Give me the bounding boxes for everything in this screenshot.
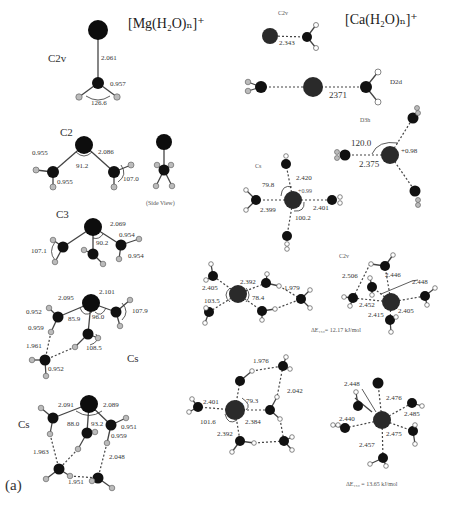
- bond-label: 2.420: [296, 174, 312, 182]
- mg-n3-symmetry: C3: [56, 208, 69, 220]
- angle-label: 78.4: [252, 294, 265, 302]
- bond-label: 2.061: [101, 54, 117, 62]
- mg-n1-structure: C2v 2.061 0.957 126.6: [48, 20, 126, 107]
- angle-label: 90.2: [96, 239, 109, 247]
- bond-label: 2.086: [98, 148, 114, 156]
- angle-label: 107.0: [123, 175, 139, 183]
- bond-label: 2.476: [386, 394, 402, 402]
- ca-n5a-structure: C2v 2.506 2.446 2.448: [311, 253, 437, 335]
- ca-n2-structure: D2d 2371: [245, 69, 402, 105]
- bond-label: 2.446: [385, 271, 401, 279]
- h-atom: [114, 94, 120, 100]
- h-atom: [76, 94, 82, 100]
- charge-label: +0.99: [298, 188, 312, 194]
- bond-label: 2.048: [109, 453, 125, 461]
- bond-label: 2.401: [203, 398, 219, 406]
- bond-label: 0.952: [48, 365, 64, 373]
- bond-label: 2.448: [412, 278, 428, 286]
- molecular-structures-diagram: [Mg(H₂O)ₙ]⁺ [Ca(H₂O)ₙ]⁺ C2v 2.061 0.957 …: [0, 0, 452, 509]
- bond-label: 0.957: [110, 80, 126, 88]
- ca-n5b-structure: Cs: [187, 355, 304, 455]
- angle-label: 120.0: [351, 138, 372, 148]
- ca-n3-structure: D3h 120.0 +0.98 2.375: [335, 106, 421, 208]
- bond-label: 2.384: [245, 418, 261, 426]
- mg-column-title: [Mg(H₂O)ₙ]⁺: [128, 16, 205, 32]
- ca-n4b-structure: 2.405 2.392 1.979 103.5 78.4: [202, 262, 312, 326]
- ca-n4a-symmetry: Cs: [255, 163, 262, 169]
- bond-label: 1.951: [68, 478, 84, 486]
- mg-n5-symmetry: Cs: [18, 418, 30, 430]
- bond-label: 0.952: [26, 308, 42, 316]
- bond-label: 1.979: [284, 284, 300, 292]
- angle-label: 101.6: [200, 418, 216, 426]
- bond-label: 1.963: [33, 448, 49, 456]
- bond-label: 0.951: [121, 423, 137, 431]
- ca-n6-structure: 2.448 2.476 2.440 2.485 2.475 2.457 ΔE₁₅…: [331, 378, 425, 488]
- bond-label: 0.954: [128, 252, 144, 260]
- panel-label: (a): [5, 477, 22, 494]
- angle-label: 88.0: [67, 420, 80, 428]
- mg-n4-structure: 2.095 2.101 0.952 0.959 1.961 85.9 96.0 …: [26, 288, 148, 379]
- mg-n5-structure: Cs 2.091 2.089 88.: [18, 395, 137, 491]
- bond-label: 0.959: [28, 324, 44, 332]
- angle-label: 79.3: [246, 397, 259, 405]
- angle-label: 91.2: [76, 162, 89, 170]
- bond-label: 2.457: [359, 441, 375, 449]
- bond-label: 2.042: [287, 387, 303, 395]
- bond-label: 2.440: [339, 415, 355, 423]
- angle-label: 100.2: [295, 214, 311, 222]
- energy-label-n5: ΔE₁₅₀= 12.17 kJ/mol: [311, 327, 361, 333]
- bond-label: 2.343: [279, 39, 295, 47]
- angle-label: 85.9: [68, 315, 81, 323]
- bond-label: 2.392: [217, 430, 233, 438]
- bond-label: 2.452: [359, 301, 375, 309]
- bond-label: 1.976: [253, 357, 269, 365]
- bond-label: 0.955: [57, 178, 73, 186]
- bond-label: 2.392: [240, 278, 256, 286]
- o-atom: [92, 77, 104, 89]
- bond-label: 2.399: [260, 206, 276, 214]
- mg-atom: [88, 20, 108, 40]
- bond-label: 1.961: [26, 342, 42, 350]
- mg-n1-symmetry: C2v: [48, 52, 67, 64]
- angle-label: 96.0: [92, 313, 105, 321]
- ca-n3-symmetry: D3h: [360, 117, 370, 123]
- angle-label: 126.6: [91, 99, 107, 107]
- bond-label: 2.405: [202, 284, 218, 292]
- bond-label: 2371: [329, 90, 347, 100]
- angle-label: 107.9: [132, 307, 148, 315]
- mg-n2-structure: C2 0.955 0.955 2.086 91.2 107.0 (Side Vi…: [32, 126, 175, 207]
- bond-label: 2.069: [110, 220, 126, 228]
- mg-n3-structure: C3 2.069 90.2 107.1 0.954 0.954: [31, 208, 144, 267]
- bond-label: 0.954: [119, 231, 135, 239]
- angle-label: 107.1: [31, 247, 47, 255]
- bond-label: 2.401: [313, 204, 329, 212]
- charge-label: +0.98: [401, 147, 418, 155]
- bond-label: 0.959: [111, 432, 127, 440]
- ca-n4a-structure: Cs 2.420 2.399 2.401 79.8 100.2 +0.99: [244, 154, 343, 252]
- bond-label: 2.405: [398, 307, 414, 315]
- bond-label: 2.375: [359, 159, 380, 169]
- bond-label: 2.089: [103, 401, 119, 409]
- ca-n5a-symmetry: C2v: [339, 253, 349, 259]
- bond-label: 2.091: [58, 401, 74, 409]
- ca-n1-symmetry: C2v: [278, 10, 288, 16]
- bond-label: 2.506: [342, 272, 358, 280]
- ca-n1-structure: C2v 2.343: [262, 10, 319, 51]
- bond-label: 2.101: [99, 288, 115, 296]
- angle-label: 79.8: [262, 181, 275, 189]
- mg-n4-symmetry: Cs: [127, 352, 139, 364]
- bond-label: 2.475: [386, 430, 402, 438]
- angle-label: 108.5: [86, 344, 102, 352]
- bond-label: 2.448: [344, 380, 360, 388]
- mg-n2-symmetry: C2: [60, 126, 73, 138]
- energy-label-n6: ΔE₁₅₀ = 13.65 kJ/mol: [346, 481, 398, 487]
- ca-n2-symmetry: D2d: [390, 78, 403, 86]
- side-view-caption: (Side View): [146, 200, 175, 207]
- bond-label: 0.955: [32, 149, 48, 157]
- ca-column-title: [Ca(H₂O)ₙ]⁺: [345, 12, 418, 28]
- bond-label: 2.095: [58, 294, 74, 302]
- bond-label: 2.485: [404, 410, 420, 418]
- bond-label: 2.415: [368, 311, 384, 319]
- angle-label: 93.2: [91, 420, 104, 428]
